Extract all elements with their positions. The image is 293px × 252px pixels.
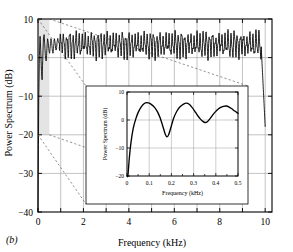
inset-plot: 00.10.20.30.40.5 100−10−20 Frequency (kH… [86, 86, 248, 204]
main-x-tick: 6 [172, 217, 177, 227]
main-y-tick: −20 [18, 130, 33, 140]
inset-x-tick: 0.3 [190, 180, 197, 186]
inset-x-tick: 0 [126, 180, 129, 186]
main-y-tick: 10 [24, 15, 34, 25]
inset-y-tick: −10 [115, 145, 124, 151]
inset-x-tick: 0.1 [146, 180, 153, 186]
main-x-tick: 8 [217, 217, 222, 227]
power-spectrum-figure: 0246810 100−10−20−30−40 Frequency (kHz) … [0, 0, 293, 252]
panel-label: (b) [6, 234, 18, 246]
inset-x-axis-title: Frequency (kHz) [162, 190, 203, 197]
inset-y-tick: 0 [121, 117, 124, 123]
main-x-axis-title: Frequency (kHz) [118, 237, 186, 249]
inset-x-tick: 0.2 [168, 180, 175, 186]
main-y-tick: −30 [18, 169, 33, 179]
main-y-tick: 0 [28, 53, 33, 63]
main-x-tick: 4 [126, 217, 131, 227]
inset-y-tick: 10 [118, 89, 124, 95]
main-x-tick: 10 [260, 217, 270, 227]
inset-y-tick: −20 [115, 173, 124, 179]
main-y-tick: −40 [18, 208, 33, 218]
inset-x-tick: 0.4 [212, 180, 219, 186]
figure-panel-b: 0246810 100−10−20−30−40 Frequency (kHz) … [0, 0, 293, 252]
main-x-tick: 2 [81, 217, 86, 227]
main-y-tick: −10 [18, 92, 33, 102]
inset-x-tick: 0.5 [235, 180, 242, 186]
main-y-axis-title: Power Spectrum (dB) [3, 69, 15, 156]
main-x-tick: 0 [36, 217, 41, 227]
inset-y-axis-title: Power Spectrum (dB) [102, 108, 109, 160]
inset-outer-box [86, 86, 248, 204]
